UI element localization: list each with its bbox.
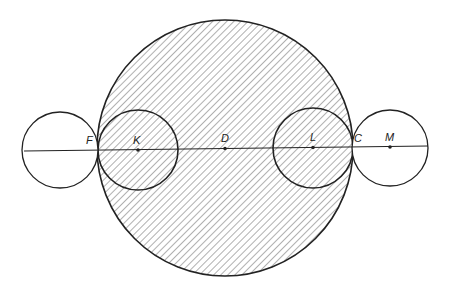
point-m-dot	[388, 145, 392, 149]
label-l: L	[310, 131, 316, 143]
label-m: M	[385, 131, 395, 143]
point-l-dot	[311, 146, 315, 150]
point-k-dot	[136, 148, 140, 152]
label-d: D	[221, 132, 229, 144]
geometry-diagram: F K D L C M	[0, 0, 452, 294]
label-k: K	[133, 134, 141, 146]
point-d-dot	[223, 147, 227, 151]
label-c: C	[354, 132, 362, 144]
